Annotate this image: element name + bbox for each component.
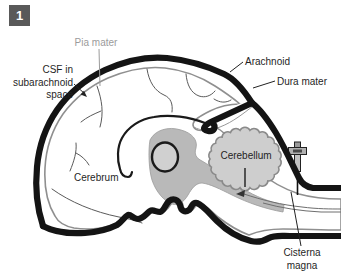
sulcus-line <box>81 111 101 122</box>
label-arachnoid: Arachnoid <box>245 56 290 67</box>
figure-number: 1 <box>16 8 23 23</box>
label-pia-mater: Pia mater <box>75 37 118 48</box>
interthalamic-adhesion <box>152 143 178 172</box>
figure-brain-meninges-diagram: 1 Pia mater CSF in subarachnoid space Ar… <box>0 0 341 278</box>
label-csf-line3: space <box>46 89 73 100</box>
sulcus-line <box>214 99 231 102</box>
label-cisterna-magna-line2: magna <box>287 260 318 271</box>
arachnoid-leader-line <box>230 62 243 72</box>
label-cerebellum: Cerebellum <box>220 150 271 161</box>
label-csf-line2: subarachnoid <box>13 77 73 88</box>
label-csf-line1: CSF in <box>42 64 73 75</box>
sulcus-line <box>70 143 76 171</box>
sulcus-line <box>147 69 172 112</box>
diagram-canvas: 1 Pia mater CSF in subarachnoid space Ar… <box>0 0 341 278</box>
label-cerebrum: Cerebrum <box>74 172 118 183</box>
dura-mater-leader-line <box>253 81 275 88</box>
label-dura-mater: Dura mater <box>277 76 328 87</box>
label-cisterna-magna-line1: Cisterna <box>283 247 321 258</box>
sulcus-line <box>97 86 102 127</box>
pia-mater-leader-line <box>99 49 100 86</box>
sulcus-line <box>76 153 89 165</box>
